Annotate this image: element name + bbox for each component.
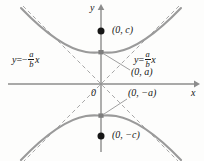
vertex-upper-marker: [98, 50, 103, 54]
asymptote-right-variable: x: [151, 54, 155, 65]
asymptote-left-fraction: ab: [28, 50, 34, 68]
origin-label: 0: [91, 88, 96, 98]
asymptote-left-variable: x: [35, 54, 39, 65]
point-label-focus-lower: (0, −c): [112, 130, 140, 140]
vertex-lower-marker: [98, 113, 103, 117]
focus-lower-dot: [98, 133, 105, 140]
asymptote-left-numerator: a: [28, 50, 34, 59]
point-label-vertex-lower: (0, −a): [128, 88, 156, 98]
hyperbola-figure: y=−abx y=abx (0, c) (0, a) (0, −a) (0, −…: [0, 0, 204, 161]
focus-upper-dot: [98, 28, 105, 35]
asymptote-label-left: y=−abx: [12, 50, 39, 68]
x-axis-label: x: [191, 88, 195, 98]
y-axis-label: y: [90, 3, 94, 13]
asymptote-right-equals: =: [138, 54, 144, 65]
point-label-focus-upper: (0, c): [112, 25, 133, 35]
asymptote-right-numerator: a: [145, 50, 151, 59]
figure-graphics: [0, 0, 204, 161]
point-label-vertex-upper: (0, a): [131, 67, 153, 77]
asymptote-left-sign: −: [22, 54, 28, 65]
y-axis: [98, 4, 105, 152]
asymptote-left-denominator: b: [28, 59, 34, 69]
